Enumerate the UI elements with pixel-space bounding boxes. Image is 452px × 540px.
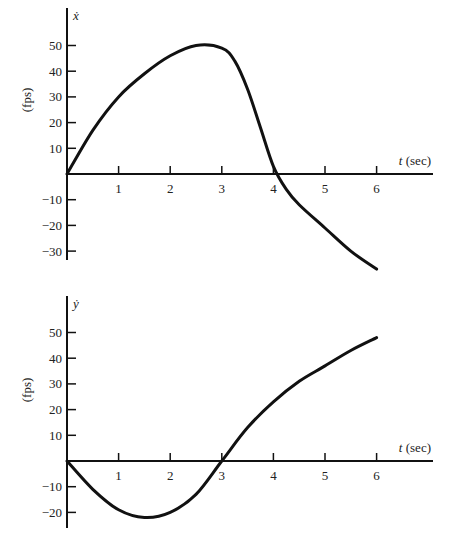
y-tick-label: 30 <box>49 89 62 104</box>
x-tick-label: 4 <box>270 468 277 483</box>
x-tick-label: 4 <box>270 181 277 196</box>
y-axis-units: (fps) <box>19 88 34 113</box>
y-tick-label: 20 <box>49 402 62 417</box>
y-tick-label: 40 <box>49 64 62 79</box>
y-tick-label: 20 <box>49 115 62 130</box>
y-tick-label: 10 <box>49 141 62 156</box>
velocity-curve <box>67 45 377 269</box>
y-axis-symbol: ẋ <box>72 8 79 23</box>
y-tick-label: 10 <box>49 428 62 443</box>
x-tick-label: 5 <box>322 181 329 196</box>
x-tick-label: 3 <box>219 181 226 196</box>
y-tick-label: −10 <box>42 192 62 207</box>
x-tick-label: 5 <box>322 468 329 483</box>
y-tick-label: 50 <box>49 325 62 340</box>
y-axis-symbol: ẏ <box>71 296 79 311</box>
x-tick-label: 3 <box>219 468 226 483</box>
x-tick-label: 1 <box>115 181 122 196</box>
x-tick-label: 1 <box>115 468 122 483</box>
y-tick-label: −30 <box>42 244 62 259</box>
velocity-curve <box>67 338 377 518</box>
x-tick-label: 6 <box>373 468 380 483</box>
x-axis-label: t (sec) <box>399 153 431 168</box>
y-tick-label: −20 <box>42 505 62 520</box>
y-tick-label: 50 <box>49 38 62 53</box>
x-tick-label: 6 <box>373 181 380 196</box>
y-tick-label: 30 <box>49 376 62 391</box>
x-tick-label: 2 <box>167 181 174 196</box>
y-tick-label: 40 <box>49 351 62 366</box>
x-axis-label: t (sec) <box>399 440 431 455</box>
y-tick-label: −20 <box>42 218 62 233</box>
velocity-charts: 1234565040302010−10−20−30ẋ(fps)t (sec)12… <box>0 0 452 540</box>
chart-x-velocity: 1234565040302010−10−20−30ẋ(fps)t (sec) <box>19 8 433 269</box>
chart-y-velocity: 1234565040302010−10−20ẏ(fps)t (sec) <box>19 296 433 528</box>
y-tick-label: −10 <box>42 479 62 494</box>
x-tick-label: 2 <box>167 468 174 483</box>
y-axis-units: (fps) <box>19 378 34 403</box>
